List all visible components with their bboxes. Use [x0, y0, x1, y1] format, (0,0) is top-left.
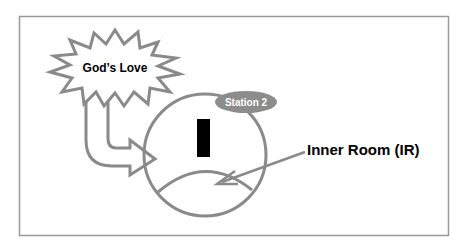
- station-label: Station 2: [225, 97, 268, 108]
- inner-room-label: Inner Room (IR): [307, 141, 420, 158]
- diagram-canvas: God’s Love Station 2 Inner Room (IR): [0, 0, 467, 250]
- station-numeral-bar: [197, 119, 210, 157]
- burst-label: God’s Love: [83, 61, 148, 75]
